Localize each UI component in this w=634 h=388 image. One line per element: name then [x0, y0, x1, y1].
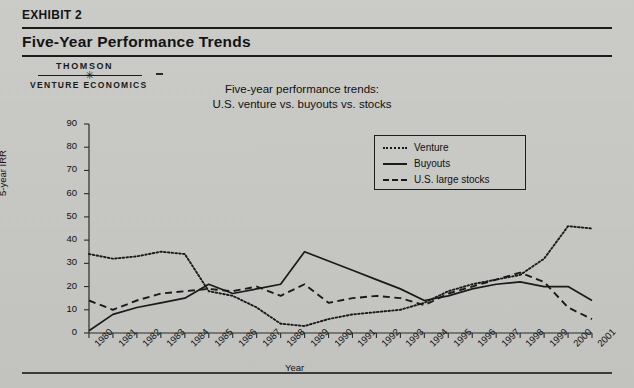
y-axis-tick-label: 90	[55, 117, 77, 128]
series-line-buyouts	[89, 252, 592, 331]
y-axis-tick-label: 60	[55, 187, 77, 198]
y-axis-tick-label: 70	[55, 163, 77, 174]
legend-swatch-dashed-icon	[383, 175, 407, 185]
footer-divider	[22, 372, 612, 374]
y-axis-tick-label: 20	[55, 280, 77, 291]
y-axis-tick-label: 40	[55, 233, 77, 244]
y-axis-tick-label: 0	[55, 326, 77, 337]
chart-plot-area: 5-year IRR Year 0102030405060708090 1980…	[0, 0, 634, 388]
y-axis-tick-label: 50	[55, 210, 77, 221]
legend-swatch-solid-icon	[383, 159, 407, 169]
series-line-venture	[89, 226, 592, 326]
y-axis-tick-label: 80	[55, 140, 77, 151]
legend-label: U.S. large stocks	[414, 173, 490, 187]
legend-swatch-dotted-icon	[383, 143, 407, 153]
legend-label: Venture	[414, 141, 448, 155]
series-line-u-s-large-stocks	[89, 273, 592, 319]
legend-item-venture: Venture	[383, 141, 448, 155]
chart-legend: Venture Buyouts U.S. large stocks	[374, 135, 526, 190]
exhibit-page: EXHIBIT 2 Five-Year Performance Trends T…	[0, 0, 634, 388]
y-axis-title: 5-year IRR	[0, 150, 8, 196]
legend-item-us-large-stocks: U.S. large stocks	[383, 173, 490, 187]
legend-item-buyouts: Buyouts	[383, 157, 450, 171]
y-axis-tick-label: 10	[55, 303, 77, 314]
y-axis-tick-label: 30	[55, 256, 77, 267]
legend-label: Buyouts	[414, 157, 450, 171]
